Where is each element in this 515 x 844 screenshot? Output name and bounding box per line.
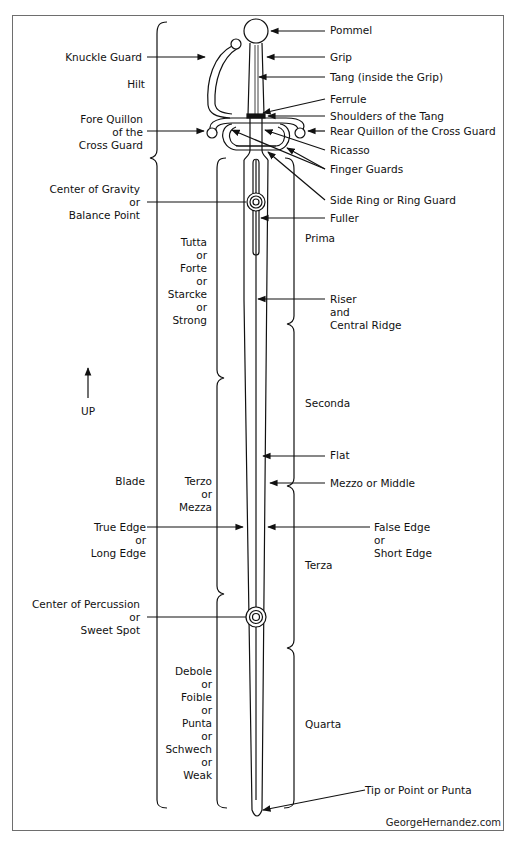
label-hilt: Hilt: [127, 78, 145, 91]
forte-line-7: Strong: [168, 314, 207, 327]
fore-quillon-line-3: Cross Guard: [79, 139, 143, 152]
label-fuller: Fuller: [330, 212, 359, 225]
grip-shape: [248, 43, 264, 115]
debole-line-9: Weak: [165, 769, 212, 782]
center-gravity-line-1: Center of Gravity: [50, 183, 141, 196]
label-ricasso: Ricasso: [330, 144, 370, 157]
fore-quillon-line-1: Fore Quillon: [79, 113, 143, 126]
label-quarta: Quarta: [305, 718, 341, 731]
riser-line-1: Riser: [330, 293, 402, 306]
fore-quillon-line-2: of the: [79, 126, 143, 139]
true-edge-line-2: or: [91, 534, 146, 547]
mezza-line-1: Terzo: [179, 475, 212, 488]
label-tip: Tip or Point or Punta: [365, 784, 472, 797]
debole-brace: [217, 602, 227, 808]
label-prima: Prima: [305, 232, 335, 245]
label-forte: Tutta or Forte or Starcke or Strong: [168, 236, 207, 327]
label-knuckle-guard: Knuckle Guard: [65, 51, 142, 64]
mezza-brace: [217, 386, 224, 602]
true-edge-line-1: True Edge: [91, 521, 146, 534]
riser-line-3: Central Ridge: [330, 319, 402, 332]
forte-line-3: Forte: [168, 262, 207, 275]
false-edge-line-2: or: [374, 534, 432, 547]
label-up: UP: [81, 405, 95, 418]
false-edge-line-3: Short Edge: [374, 547, 432, 560]
hilt-brace: [150, 22, 167, 166]
forte-line-2: or: [168, 249, 207, 262]
false-edge-line-1: False Edge: [374, 521, 432, 534]
debole-line-7: Schwech: [165, 743, 212, 756]
debole-line-5: Punta: [165, 717, 212, 730]
center-gravity-line-2: or: [50, 196, 141, 209]
mezza-line-3: Mezza: [179, 501, 212, 514]
label-tang: Tang (inside the Grip): [330, 71, 443, 84]
debole-line-1: Debole: [165, 665, 212, 678]
debole-line-6: or: [165, 730, 212, 743]
label-flat: Flat: [330, 449, 350, 462]
label-fore-quillon: Fore Quillon of the Cross Guard: [79, 113, 143, 152]
forte-line-5: Starcke: [168, 288, 207, 301]
label-debole: Debole or Foible or Punta or Schwech or …: [165, 665, 212, 782]
label-center-of-percussion: Center of Percussion or Sweet Spot: [32, 598, 140, 637]
debole-line-2: or: [165, 678, 212, 691]
prima-brace: [285, 158, 294, 332]
label-terza: Terza: [305, 559, 332, 572]
debole-line-4: or: [165, 704, 212, 717]
forte-line-6: or: [168, 301, 207, 314]
pommel-shape: [244, 19, 268, 43]
label-ferrule: Ferrule: [330, 93, 366, 106]
forte-line-1: Tutta: [168, 236, 207, 249]
label-rear-quillon: Rear Quillon of the Cross Guard: [330, 125, 496, 138]
quarta-brace: [284, 656, 294, 808]
center-percussion-line-1: Center of Percussion: [32, 598, 140, 611]
debole-line-8: or: [165, 756, 212, 769]
label-shoulders: Shoulders of the Tang: [330, 110, 444, 123]
label-pommel: Pommel: [330, 24, 372, 37]
label-mezzo: Mezzo or Middle: [330, 477, 415, 490]
cross-guard-shape: [210, 118, 304, 133]
seconda-brace: [287, 332, 294, 494]
label-true-edge: True Edge or Long Edge: [91, 521, 146, 560]
label-finger-guards: Finger Guards: [330, 163, 403, 176]
mezza-line-2: or: [179, 488, 212, 501]
riser-line-2: and: [330, 306, 402, 319]
credit-text: GeorgeHernandez.com: [386, 817, 501, 828]
true-edge-line-3: Long Edge: [91, 547, 146, 560]
label-mezza: Terzo or Mezza: [179, 475, 212, 514]
forte-line-4: or: [168, 275, 207, 288]
label-false-edge: False Edge or Short Edge: [374, 521, 432, 560]
center-percussion-line-2: or: [32, 611, 140, 624]
label-riser: Riser and Central Ridge: [330, 293, 402, 332]
center-gravity-line-3: Balance Point: [50, 209, 141, 222]
label-center-of-gravity: Center of Gravity or Balance Point: [50, 183, 141, 222]
debole-line-3: Foible: [165, 691, 212, 704]
terza-brace: [287, 494, 294, 656]
forte-brace: [217, 158, 226, 386]
label-seconda: Seconda: [305, 397, 350, 410]
label-side-ring: Side Ring or Ring Guard: [330, 194, 456, 207]
label-grip: Grip: [330, 51, 352, 64]
center-percussion-line-3: Sweet Spot: [32, 624, 140, 637]
label-blade: Blade: [115, 475, 145, 488]
